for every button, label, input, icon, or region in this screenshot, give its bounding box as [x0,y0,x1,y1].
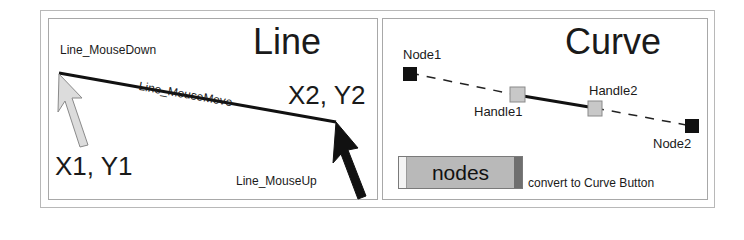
handle1-label: Handle1 [474,105,522,118]
button-right-cap [514,157,522,188]
handle2-label: Handle2 [589,84,637,97]
mouse-up-label: Line_MouseUp [236,175,317,187]
line-title: Line [253,24,321,60]
node1-marker[interactable] [403,67,417,81]
button-caption: convert to Curve Button [528,177,654,189]
nodes-button-label: nodes [432,161,489,185]
handle1-guide [410,73,517,95]
start-coord-label: X1, Y1 [55,153,133,179]
handle2-marker[interactable] [588,101,602,116]
curve-title: Curve [565,24,661,60]
cursor-end-icon [333,122,366,199]
button-left-cap [399,157,407,188]
nodes-button[interactable]: nodes [398,156,523,189]
handle1-marker[interactable] [510,87,525,102]
node1-label: Node1 [403,48,441,61]
mouse-down-label: Line_MouseDown [60,44,156,56]
curve-segment [517,95,595,108]
node2-label: Node2 [653,137,691,150]
node2-marker[interactable] [685,119,699,133]
cursor-start-icon [58,74,88,147]
handle2-guide [595,108,692,126]
end-coord-label: X2, Y2 [288,82,366,108]
